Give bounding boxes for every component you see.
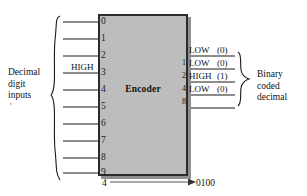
- equation-input: 4: [102, 178, 107, 188]
- output-state-2: LOW(0): [189, 58, 228, 68]
- input-digit-9: 9: [101, 167, 113, 177]
- output-state-8-value: LOW: [189, 84, 214, 94]
- input-digit-5: 5: [101, 101, 113, 111]
- output-state-8: LOW(0): [189, 84, 228, 94]
- output-state-1: LOW(0): [189, 45, 228, 55]
- input-digit-4: 4: [101, 84, 113, 94]
- equation-arrow: [110, 179, 196, 186]
- output-pin-number-4: 4: [174, 84, 186, 93]
- input-digit-7: 7: [101, 135, 113, 145]
- input-digit-6: 6: [101, 118, 113, 128]
- output-pin-number-8: 8: [174, 97, 186, 106]
- output-state-1-bit: (0): [217, 45, 228, 55]
- output-caption-line-2: coded: [257, 81, 287, 93]
- input-digit-0: 0: [101, 16, 113, 26]
- output-state-4: HIGH(1): [189, 71, 228, 81]
- output-state-2-bit: (0): [217, 58, 228, 68]
- input-brace: [51, 16, 60, 180]
- stray-mark: ': [10, 101, 12, 111]
- input-digit-8: 8: [101, 152, 113, 162]
- encoder-diagram: Encoder 0 1 2 3 4 5 6 7 8 9 HIGH 1 2 4 8…: [0, 0, 307, 196]
- output-pin-number-1: 1: [174, 58, 186, 67]
- output-pin-number-2: 2: [174, 71, 186, 80]
- input-caption-line-3: inputs: [8, 90, 40, 102]
- input-active-label: HIGH: [70, 62, 95, 72]
- input-digit-1: 1: [101, 33, 113, 43]
- input-caption: Decimal digit inputs: [8, 67, 40, 102]
- output-state-1-value: LOW: [189, 45, 214, 55]
- output-state-8-bit: (0): [217, 84, 228, 94]
- input-digit-2: 2: [101, 50, 113, 60]
- output-state-2-value: LOW: [189, 58, 214, 68]
- input-caption-line-1: Decimal: [8, 67, 40, 79]
- output-caption-line-3: decimal: [257, 92, 287, 104]
- equation-output: 0100: [196, 178, 215, 188]
- output-state-4-bit: (1): [217, 71, 228, 81]
- output-caption-line-1: Binary: [257, 69, 287, 81]
- input-digit-3: 3: [101, 67, 113, 77]
- input-wire-group: [63, 22, 99, 173]
- output-brace: [238, 52, 249, 106]
- input-caption-line-2: digit: [8, 79, 40, 91]
- output-state-4-value: HIGH: [189, 71, 214, 81]
- output-caption: Binary coded decimal: [257, 69, 287, 104]
